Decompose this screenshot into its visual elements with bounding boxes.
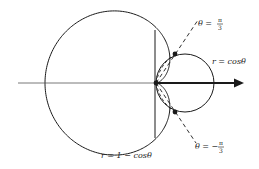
ray-upper (156, 20, 198, 83)
lower-angle-den: 3 (219, 147, 223, 154)
lower-angle-prefix: θ = − (195, 142, 218, 151)
origin-point (154, 81, 159, 86)
intersection-upper (173, 52, 178, 57)
upper-angle-num: π (218, 16, 222, 23)
circle-label: r = cosθ (212, 57, 246, 66)
upper-angle-den: 3 (218, 24, 222, 31)
arrowhead-icon (234, 79, 244, 88)
polar-diagram: r = cosθ r = 1 − cosθ θ = π 3 θ = − π 3 (0, 0, 259, 169)
lower-angle-num: π (219, 139, 223, 146)
intersection-lower (173, 110, 178, 115)
upper-angle-label: θ = π 3 (198, 16, 223, 31)
cardioid-label: r = 1 − cosθ (101, 151, 152, 160)
upper-angle-prefix: θ = (198, 19, 212, 28)
lower-angle-label: θ = − π 3 (195, 139, 224, 154)
